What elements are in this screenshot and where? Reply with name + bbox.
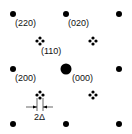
- spot-000: [61, 64, 72, 75]
- cluster-110: [35, 36, 44, 45]
- spot-bottom-right: [116, 121, 122, 127]
- spot-top-right: [116, 11, 122, 17]
- spot-bottom-mid: [63, 121, 69, 127]
- spot-220: [10, 11, 16, 17]
- main-spots: [10, 11, 122, 127]
- splitting-dimension: [26, 98, 53, 111]
- spot-mid-right: [116, 66, 122, 72]
- cluster-bottom-right: [88, 90, 97, 99]
- diffraction-pattern: (220) (020) (110) (200) (000) 2Δ: [0, 0, 132, 134]
- label-110: (110): [41, 46, 61, 56]
- spot-bottom-left: [10, 121, 16, 127]
- label-splitting: 2Δ: [34, 112, 45, 122]
- spot-020: [63, 11, 69, 17]
- label-220: (220): [15, 18, 36, 28]
- label-000: (000): [72, 73, 93, 83]
- spot-200: [10, 66, 16, 72]
- cluster-top-right: [88, 36, 97, 45]
- label-020: (020): [68, 18, 89, 28]
- label-200: (200): [15, 73, 36, 83]
